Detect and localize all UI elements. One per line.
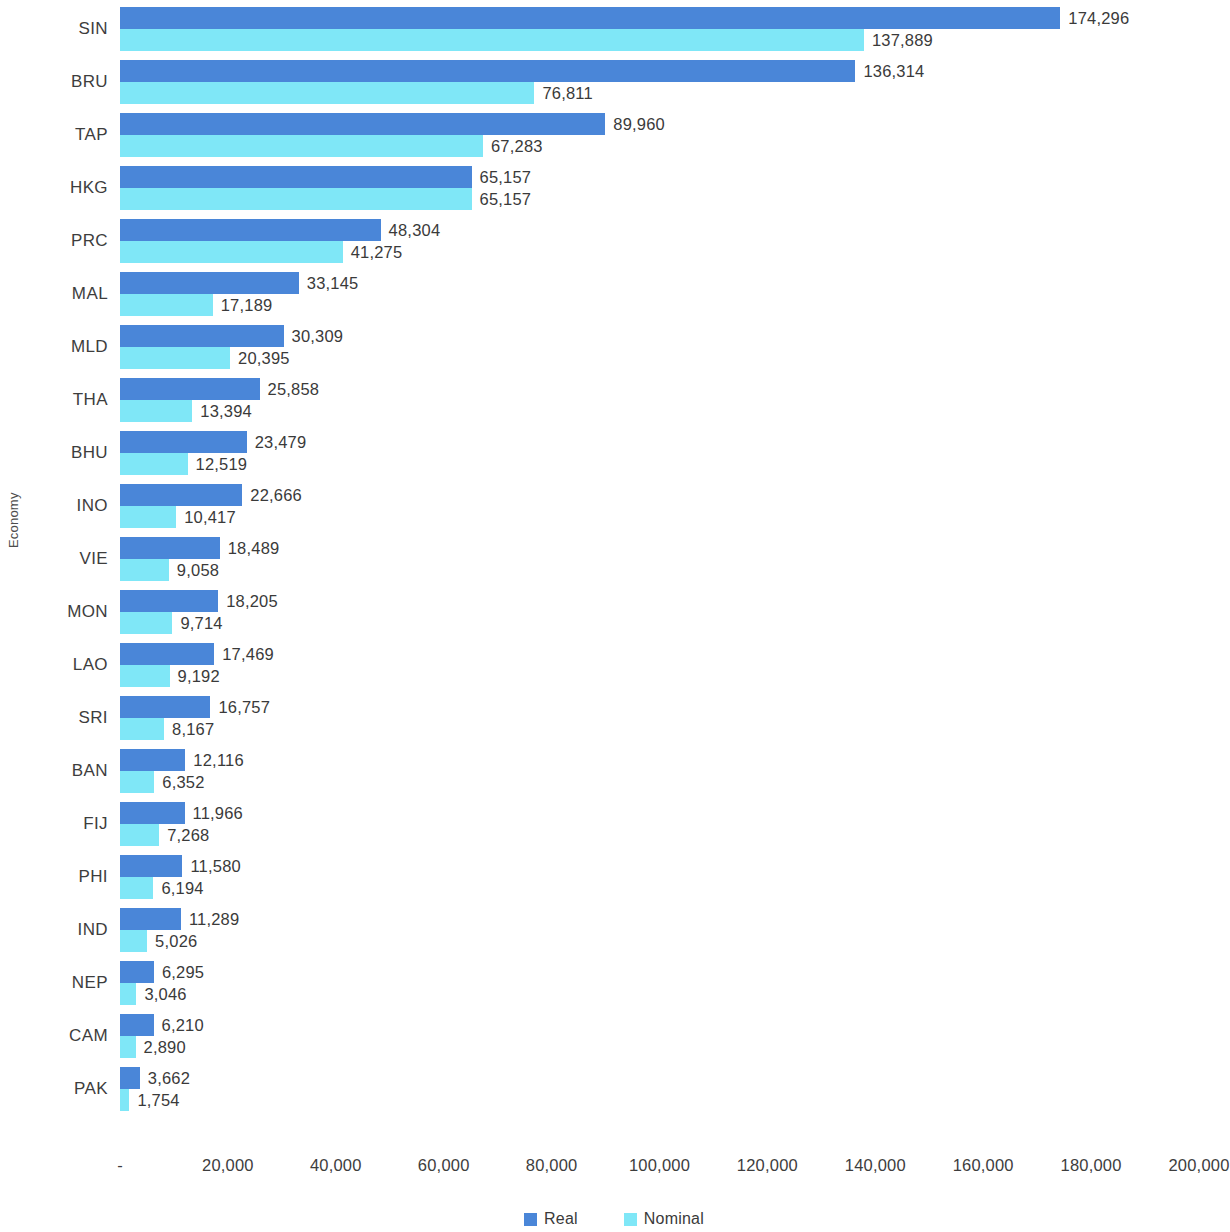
bar-nominal[interactable] bbox=[120, 1089, 129, 1111]
x-axis-tick-label: 60,000 bbox=[418, 1152, 470, 1178]
bar-nominal[interactable] bbox=[120, 877, 153, 899]
bar-real[interactable] bbox=[120, 325, 284, 347]
bar-nominal[interactable] bbox=[120, 559, 169, 581]
bar-nominal[interactable] bbox=[120, 506, 176, 528]
chart-row: CAM6,2102,890 bbox=[0, 1009, 1228, 1062]
bar-nominal[interactable] bbox=[120, 930, 147, 952]
bar-value-label: 2,890 bbox=[136, 1036, 186, 1058]
bar-value-label: 7,268 bbox=[159, 824, 209, 846]
chart-row: TAP89,96067,283 bbox=[0, 108, 1228, 161]
bar-nominal[interactable] bbox=[120, 400, 192, 422]
category-label: PHI bbox=[0, 863, 108, 891]
legend-item-nominal[interactable]: Nominal bbox=[624, 1210, 704, 1228]
category-label: LAO bbox=[0, 651, 108, 679]
bar-real[interactable] bbox=[120, 908, 181, 930]
bar-real[interactable] bbox=[120, 537, 220, 559]
bar-group-real: 33,145 bbox=[120, 272, 1199, 294]
bar-real[interactable] bbox=[120, 1014, 154, 1036]
bar-real[interactable] bbox=[120, 590, 218, 612]
chart-row: BRU136,31476,811 bbox=[0, 55, 1228, 108]
bar-real[interactable] bbox=[120, 1067, 140, 1089]
bar-real[interactable] bbox=[120, 431, 247, 453]
bar-value-label: 3,662 bbox=[140, 1067, 190, 1089]
bar-nominal[interactable] bbox=[120, 29, 864, 51]
bar-real[interactable] bbox=[120, 643, 214, 665]
bar-group-real: 11,580 bbox=[120, 855, 1199, 877]
bar-real[interactable] bbox=[120, 696, 210, 718]
bar-real[interactable] bbox=[120, 60, 855, 82]
chart-row: PRC48,30441,275 bbox=[0, 214, 1228, 267]
bar-real[interactable] bbox=[120, 219, 381, 241]
bar-group-nominal: 9,058 bbox=[120, 559, 1199, 581]
bar-real[interactable] bbox=[120, 749, 185, 771]
bar-nominal[interactable] bbox=[120, 294, 213, 316]
bar-nominal[interactable] bbox=[120, 241, 343, 263]
legend-item-real[interactable]: Real bbox=[524, 1210, 578, 1228]
bar-group-nominal: 67,283 bbox=[120, 135, 1199, 157]
bar-nominal[interactable] bbox=[120, 188, 472, 210]
bar-value-label: 9,714 bbox=[172, 612, 222, 634]
category-label: THA bbox=[0, 386, 108, 414]
bar-group-nominal: 9,192 bbox=[120, 665, 1199, 687]
bar-group-nominal: 6,352 bbox=[120, 771, 1199, 793]
bar-nominal[interactable] bbox=[120, 612, 172, 634]
bar-value-label: 174,296 bbox=[1060, 7, 1129, 29]
category-label: IND bbox=[0, 916, 108, 944]
bar-real[interactable] bbox=[120, 7, 1060, 29]
category-label: FIJ bbox=[0, 810, 108, 838]
bar-nominal[interactable] bbox=[120, 771, 154, 793]
chart-row: VIE18,4899,058 bbox=[0, 532, 1228, 585]
bar-nominal[interactable] bbox=[120, 1036, 136, 1058]
bar-nominal[interactable] bbox=[120, 453, 188, 475]
bar-nominal[interactable] bbox=[120, 82, 534, 104]
chart-row: MLD30,30920,395 bbox=[0, 320, 1228, 373]
bar-real[interactable] bbox=[120, 802, 185, 824]
bar-nominal[interactable] bbox=[120, 135, 483, 157]
bar-value-label: 89,960 bbox=[605, 113, 665, 135]
category-label: PAK bbox=[0, 1075, 108, 1103]
bar-real[interactable] bbox=[120, 113, 605, 135]
bar-nominal[interactable] bbox=[120, 824, 159, 846]
bar-nominal[interactable] bbox=[120, 983, 136, 1005]
bar-value-label: 8,167 bbox=[164, 718, 214, 740]
bar-value-label: 6,295 bbox=[154, 961, 204, 983]
bar-nominal[interactable] bbox=[120, 665, 170, 687]
bar-value-label: 136,314 bbox=[855, 60, 924, 82]
bar-value-label: 48,304 bbox=[381, 219, 441, 241]
category-label: MAL bbox=[0, 280, 108, 308]
bar-real[interactable] bbox=[120, 378, 260, 400]
bar-value-label: 3,046 bbox=[136, 983, 186, 1005]
x-axis-tick-label: 40,000 bbox=[310, 1152, 362, 1178]
bar-group-real: 23,479 bbox=[120, 431, 1199, 453]
chart-row: PAK3,6621,754 bbox=[0, 1062, 1228, 1115]
bar-group-nominal: 1,754 bbox=[120, 1089, 1199, 1111]
chart-row: LAO17,4699,192 bbox=[0, 638, 1228, 691]
bar-real[interactable] bbox=[120, 484, 242, 506]
bar-nominal[interactable] bbox=[120, 718, 164, 740]
bar-group-nominal: 137,889 bbox=[120, 29, 1199, 51]
chart-row: NEP6,2953,046 bbox=[0, 956, 1228, 1009]
bar-real[interactable] bbox=[120, 961, 154, 983]
bar-value-label: 33,145 bbox=[299, 272, 359, 294]
chart-row: PHI11,5806,194 bbox=[0, 850, 1228, 903]
bar-nominal[interactable] bbox=[120, 347, 230, 369]
bar-group-nominal: 65,157 bbox=[120, 188, 1199, 210]
bar-group-nominal: 2,890 bbox=[120, 1036, 1199, 1058]
bar-value-label: 5,026 bbox=[147, 930, 197, 952]
legend-label: Real bbox=[544, 1210, 578, 1228]
category-label: VIE bbox=[0, 545, 108, 573]
bar-group-real: 11,289 bbox=[120, 908, 1199, 930]
category-label: MLD bbox=[0, 333, 108, 361]
bar-value-label: 65,157 bbox=[472, 166, 532, 188]
chart-row: IND11,2895,026 bbox=[0, 903, 1228, 956]
bar-group-real: 174,296 bbox=[120, 7, 1199, 29]
x-axis-tick-label: - bbox=[117, 1152, 123, 1178]
bar-group-real: 6,210 bbox=[120, 1014, 1199, 1036]
bar-real[interactable] bbox=[120, 855, 182, 877]
bar-real[interactable] bbox=[120, 272, 299, 294]
bar-real[interactable] bbox=[120, 166, 472, 188]
bar-group-real: 3,662 bbox=[120, 1067, 1199, 1089]
bar-value-label: 22,666 bbox=[242, 484, 302, 506]
chart-row: BAN12,1166,352 bbox=[0, 744, 1228, 797]
bar-group-nominal: 9,714 bbox=[120, 612, 1199, 634]
